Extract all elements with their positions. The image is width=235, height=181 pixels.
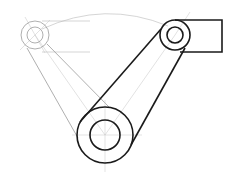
ghost-arm-edge-right <box>47 44 109 107</box>
ghost-arm-edge-left <box>27 48 78 138</box>
arm-edge-left <box>80 29 161 122</box>
left-center-v <box>25 17 45 53</box>
swing-arc <box>42 14 168 29</box>
linkage-drawing <box>0 0 235 181</box>
bracket <box>175 20 222 52</box>
arm-edge-right <box>131 48 185 145</box>
ghost-arm-centerline <box>35 35 105 135</box>
